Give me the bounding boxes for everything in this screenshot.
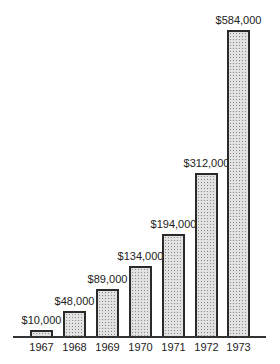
x-tick-label: 1973: [226, 341, 250, 353]
bar-1973: [227, 30, 250, 336]
x-tick-label: 1972: [194, 341, 218, 353]
x-tick-label: 1970: [128, 341, 152, 353]
value-label: $134,000: [118, 250, 164, 262]
value-label: $312,000: [184, 157, 230, 169]
x-tick-label: 1968: [62, 341, 86, 353]
x-tick-label: 1971: [161, 341, 185, 353]
value-label: $89,000: [88, 273, 128, 285]
bar-chart: $10,0001967$48,0001968$89,0001969$134,00…: [0, 0, 280, 364]
bar-1968: [63, 311, 86, 336]
bar-1967: [30, 330, 53, 336]
bar-1971: [162, 234, 185, 336]
value-label: $194,000: [151, 218, 197, 230]
value-label: $584,000: [216, 14, 262, 26]
bar-1972: [195, 173, 218, 336]
x-axis-baseline: [13, 336, 266, 338]
value-label: $10,000: [22, 314, 62, 326]
value-label: $48,000: [55, 295, 95, 307]
x-tick-label: 1969: [95, 341, 119, 353]
bar-1969: [96, 289, 119, 336]
x-tick-label: 1967: [29, 341, 53, 353]
bar-1970: [129, 266, 152, 336]
